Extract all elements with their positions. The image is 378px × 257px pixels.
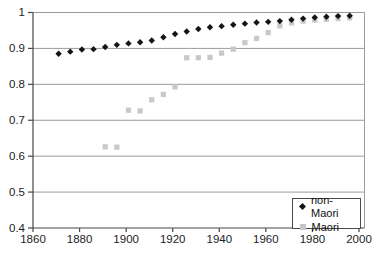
y-tick-label: 0.4 [9,222,26,234]
non-maori-point [114,42,120,48]
x-tick-label: 1940 [206,233,232,245]
non-maori-point [207,24,213,30]
non-maori-point [230,22,236,28]
maori-point [207,55,212,60]
non-maori-point [242,20,248,26]
maori-point [172,84,177,89]
non-maori-point [172,31,178,37]
diamond-marker-icon [299,203,306,210]
maori-point [149,97,154,102]
non-maori-point [125,40,131,46]
maori-point [254,36,259,41]
x-tick-label: 1980 [300,233,326,245]
legend: non-Maori Maori [292,198,361,229]
legend-item-non-maori: non-Maori [300,194,360,220]
y-tick-label: 0.5 [9,186,25,198]
non-maori-point [183,28,189,34]
x-tick-label: 1900 [113,233,139,245]
non-maori-point [79,46,85,52]
y-tick-label: 0.8 [9,78,25,90]
x-tick-label: 2000 [346,233,372,245]
non-maori-point [55,51,61,57]
x-tick-label: 1960 [253,233,279,245]
non-maori-point [265,19,271,25]
non-maori-point [137,39,143,45]
maori-point [103,144,108,149]
legend-label-maori: Maori [312,221,340,234]
maori-point [219,50,224,55]
maori-point [266,30,271,35]
non-maori-point [90,46,96,52]
non-maori-point [195,26,201,32]
y-tick-label: 0.7 [9,114,25,126]
maori-point [242,40,247,45]
y-tick-label: 0.6 [9,150,25,162]
survival-scatter-chart: 186018801900192019401960198020000.40.50.… [0,0,378,257]
maori-point [184,55,189,60]
maori-point [196,55,201,60]
non-maori-point [253,19,259,25]
maori-point [231,47,236,52]
non-maori-point [160,34,166,40]
non-maori-point [67,48,73,54]
maori-point [126,108,131,113]
non-maori-point [102,44,108,50]
maori-point [161,92,166,97]
y-tick-label: 0.9 [9,42,25,54]
x-tick-label: 1880 [67,233,93,245]
maori-point [114,145,119,150]
legend-label-non-maori: non-Maori [311,194,360,220]
non-maori-point [218,23,224,29]
square-marker-icon [300,224,306,230]
legend-item-maori: Maori [300,221,360,234]
maori-point [138,108,143,113]
y-tick-label: 1 [19,6,25,18]
non-maori-point [149,37,155,43]
x-tick-label: 1920 [160,233,186,245]
x-tick-label: 1860 [20,233,46,245]
